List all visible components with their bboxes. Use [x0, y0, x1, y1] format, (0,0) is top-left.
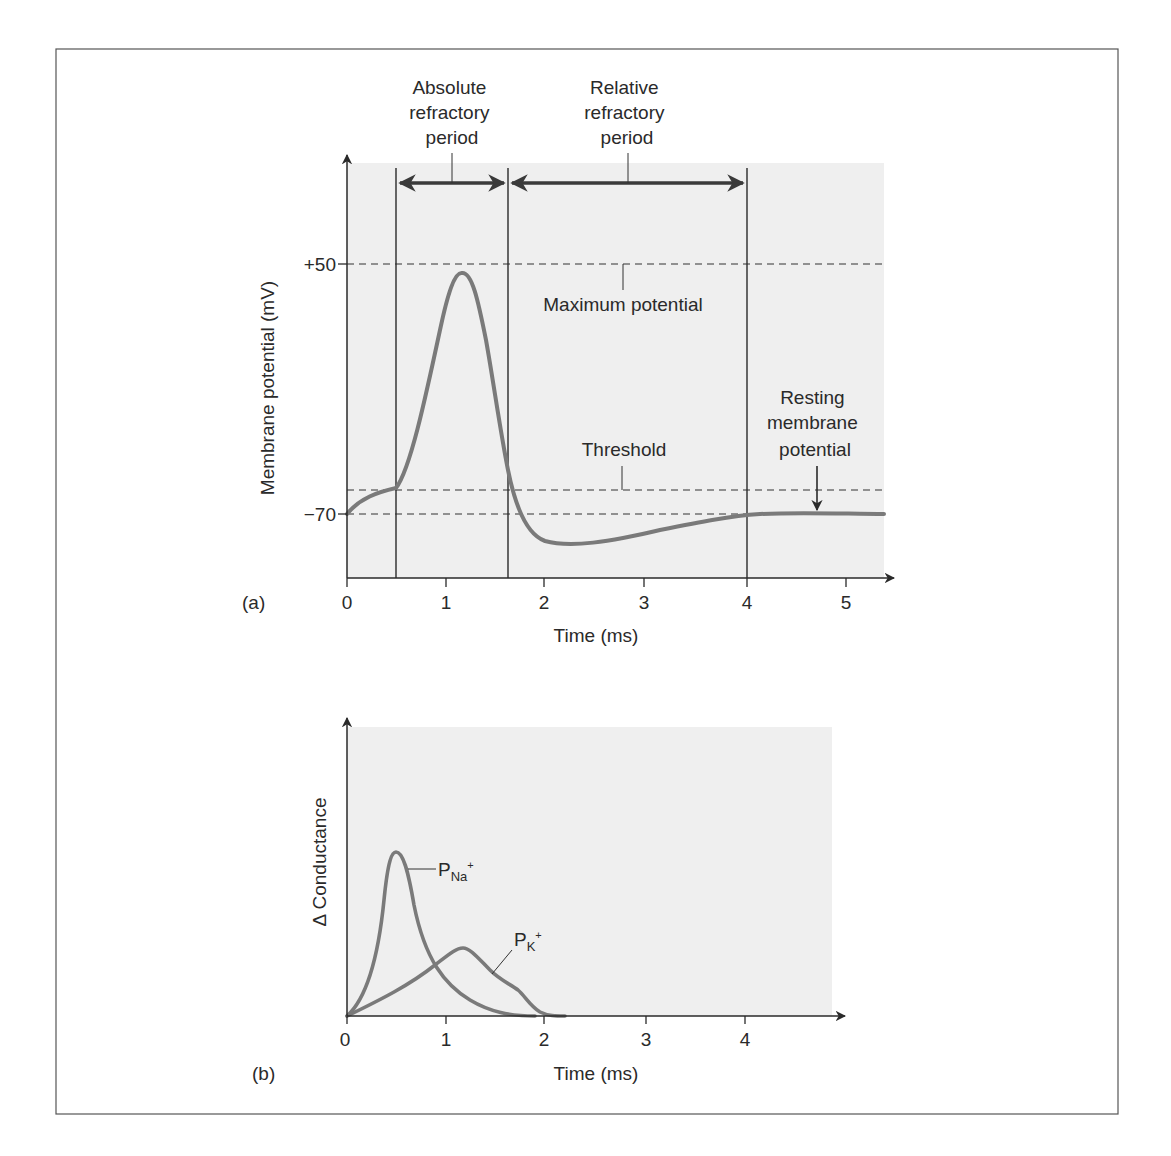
panel-b-x-ticks	[347, 1016, 745, 1024]
panel-a-tag: (a)	[242, 592, 265, 613]
relative-period-label: Relative refractory period	[584, 77, 670, 148]
b-x-tick-label-0: 0	[340, 1029, 351, 1050]
x-tick-label-4: 4	[742, 592, 753, 613]
panel-b-tag: (b)	[252, 1063, 275, 1084]
absolute-period-label: Absolute refractory period	[409, 77, 495, 148]
panel-a-y-label: Membrane potential (mV)	[257, 281, 278, 495]
x-tick-label-2: 2	[539, 592, 550, 613]
panel-b: 0 1 2 3 4 (b) Time (ms) Δ Conductance PN…	[252, 718, 845, 1084]
panel-a-x-label: Time (ms)	[554, 625, 639, 646]
panel-a-x-ticks	[347, 578, 846, 587]
panel-b-y-label: Δ Conductance	[309, 798, 330, 927]
b-x-tick-label-1: 1	[441, 1029, 452, 1050]
x-tick-label-5: 5	[841, 592, 852, 613]
x-tick-label-1: 1	[441, 592, 452, 613]
y-tick-label-plus50: +50	[304, 254, 336, 275]
x-tick-label-3: 3	[639, 592, 650, 613]
b-x-tick-label-3: 3	[641, 1029, 652, 1050]
panel-a: +50 −70 0 1 2 3 4 5 (a) Time (ms) Membra…	[242, 77, 894, 646]
panel-b-x-label: Time (ms)	[554, 1063, 639, 1084]
y-tick-label-minus70: −70	[304, 504, 336, 525]
max-potential-label: Maximum potential	[543, 294, 702, 315]
b-x-tick-label-2: 2	[539, 1029, 550, 1050]
figure: +50 −70 0 1 2 3 4 5 (a) Time (ms) Membra…	[0, 0, 1171, 1156]
x-tick-label-0: 0	[342, 592, 353, 613]
panel-a-plot-background	[347, 163, 884, 578]
threshold-label: Threshold	[582, 439, 667, 460]
panel-b-plot-background	[347, 727, 832, 1016]
resting-potential-label: Resting membrane potential	[767, 387, 863, 460]
b-x-tick-label-4: 4	[740, 1029, 751, 1050]
